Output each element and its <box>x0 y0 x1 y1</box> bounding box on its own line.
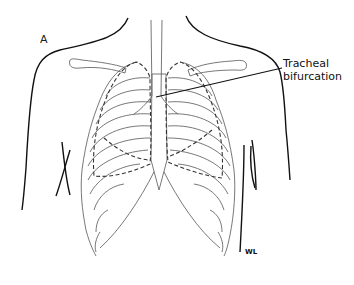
left-bronchus <box>134 96 152 114</box>
left-lung-fissure <box>104 138 148 160</box>
right-lung-outline <box>166 62 223 178</box>
left-shoulder-outline <box>22 18 128 210</box>
thorax-drawing <box>0 0 354 285</box>
panel-letter: A <box>40 33 48 46</box>
label-line-2: bifurcation <box>283 70 342 83</box>
left-clavicle <box>69 59 126 73</box>
right-lung-fissure <box>170 130 212 156</box>
left-lung-outline <box>93 62 150 176</box>
artist-signature: WL <box>245 248 257 256</box>
left-arm-inner-line <box>62 142 70 195</box>
label-line-1: Tracheal <box>283 57 342 70</box>
right-shoulder-outline <box>186 16 290 180</box>
right-ribs <box>168 78 230 252</box>
tracheal-bifurcation-label: Tracheal bifurcation <box>283 57 342 83</box>
tracheal-bifurcation-leader <box>156 68 282 97</box>
left-ribs <box>88 78 150 252</box>
anatomy-figure: A Tracheal bifurcation WL <box>0 0 354 285</box>
right-arm-line <box>240 145 244 252</box>
